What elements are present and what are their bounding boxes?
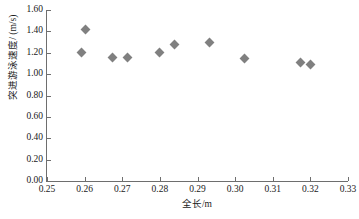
x-tick-label: 0.32 — [302, 185, 319, 195]
scatter-chart: 0.000.200.400.600.801.001.201.401.60 0.2… — [0, 0, 359, 219]
x-tick-mark — [85, 177, 86, 181]
y-tick-label: 0.60 — [26, 112, 43, 122]
y-axis-title: 突进游泳速度/ (m/s) — [8, 0, 18, 122]
x-tick-mark — [310, 177, 311, 181]
x-tick-label: 0.33 — [340, 185, 357, 195]
x-tick-label: 0.27 — [114, 185, 131, 195]
data-point — [123, 52, 133, 62]
data-point — [205, 37, 215, 47]
data-point — [240, 53, 250, 63]
data-point — [296, 57, 306, 67]
x-tick-mark — [122, 177, 123, 181]
y-tick-mark — [47, 10, 51, 11]
x-tick-label: 0.30 — [227, 185, 244, 195]
x-tick-mark — [273, 177, 274, 181]
data-point — [155, 48, 165, 58]
y-tick-label: 1.20 — [26, 48, 43, 58]
y-tick-mark — [47, 96, 51, 97]
y-tick-mark — [47, 181, 51, 182]
y-tick-mark — [47, 74, 51, 75]
y-tick-mark — [47, 53, 51, 54]
plot-area: 0.000.200.400.600.801.001.201.401.60 0.2… — [46, 10, 348, 182]
data-point — [81, 24, 91, 34]
y-tick-mark — [47, 160, 51, 161]
x-axis-title: 全长/m — [46, 199, 348, 209]
x-tick-mark — [160, 177, 161, 181]
x-tick-label: 0.28 — [152, 185, 169, 195]
x-tick-label: 0.31 — [264, 185, 281, 195]
x-tick-mark — [47, 177, 48, 181]
y-tick-label: 0.20 — [26, 155, 43, 165]
y-tick-label: 0.80 — [26, 91, 43, 101]
y-tick-mark — [47, 31, 51, 32]
x-tick-label: 0.25 — [39, 185, 56, 195]
data-point — [305, 60, 315, 70]
x-tick-mark — [198, 177, 199, 181]
y-tick-label: 1.00 — [26, 69, 43, 79]
x-tick-mark — [348, 177, 349, 181]
x-tick-mark — [235, 177, 236, 181]
y-tick-label: 1.40 — [26, 27, 43, 37]
y-tick-label: 0.40 — [26, 134, 43, 144]
y-tick-mark — [47, 117, 51, 118]
data-point — [170, 39, 180, 49]
y-tick-mark — [47, 138, 51, 139]
data-point — [108, 52, 118, 62]
data-point — [77, 48, 87, 58]
x-tick-label: 0.26 — [76, 185, 93, 195]
x-tick-label: 0.29 — [189, 185, 206, 195]
y-tick-label: 1.60 — [26, 5, 43, 15]
